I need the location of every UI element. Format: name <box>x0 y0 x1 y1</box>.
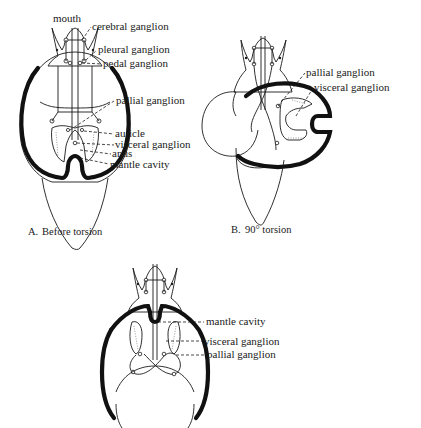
panel-b-90-torsion: pallial ganglion visceral ganglion B. 90… <box>202 36 390 235</box>
label-visceral-ganglion-b: visceral ganglion <box>314 81 390 93</box>
label-mantle-cavity-a: mantle cavity <box>110 158 170 170</box>
panel-a-before-torsion: mouth cerebral ganglion pleural ganglion… <box>20 12 191 250</box>
caption-a-letter: A. <box>28 226 38 237</box>
label-pallial-ganglion-c: pallial ganglion <box>207 348 276 360</box>
panel-c-after-torsion: mantle cavity visceral ganglion pallial … <box>102 264 280 428</box>
label-visceral-ganglion-c: visceral ganglion <box>204 335 280 347</box>
label-pallial-ganglion-b: pallial ganglion <box>306 66 375 78</box>
torsion-diagram: mouth cerebral ganglion pleural ganglion… <box>0 0 421 428</box>
label-pleural-ganglion: pleural ganglion <box>98 43 170 55</box>
label-pedal-ganglion: pedal ganglion <box>103 57 169 69</box>
label-mantle-cavity-c: mantle cavity <box>206 315 266 327</box>
caption-b-letter: B. <box>231 224 241 235</box>
label-pallial-ganglion-a: pallial ganglion <box>116 94 185 106</box>
label-mouth: mouth <box>53 12 82 24</box>
caption-a-text: Before torsion <box>42 226 103 237</box>
label-cerebral-ganglion: cerebral ganglion <box>92 20 169 32</box>
caption-b-text: 90° torsion <box>245 224 292 235</box>
